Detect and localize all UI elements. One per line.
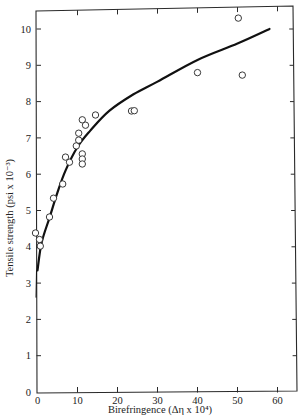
data-point-circle [66,159,72,165]
x-axis-label: Birefringence (Δη x 10⁴) [108,404,213,416]
data-point-circle [37,243,43,249]
plot-frame [36,6,297,393]
x-tick-label: 50 [232,395,243,406]
plot-border [36,6,297,393]
x-tick-label: 0 [35,395,40,406]
data-point-circle [60,181,66,187]
x-tick-label: 60 [272,395,283,406]
data-point-circle [82,122,88,128]
y-tick-label: 1 [26,350,31,361]
data-points [32,15,245,249]
data-point-circle [76,137,82,143]
data-point-circle [239,72,245,78]
data-point-circle [131,108,137,114]
y-tick-label: 2 [26,314,31,325]
y-tick-label: 10 [21,24,32,35]
data-point-circle [194,69,200,75]
y-tick-label: 6 [26,169,31,180]
y-axis-label: Tensile strength (psi x 10⁻³) [4,158,16,277]
y-axis-ticks: 012345678910 [21,24,297,398]
fit-curve-tail [36,270,37,297]
y-tick-label: 5 [26,205,31,216]
tensile-vs-birefringence-chart: 012345678910 0102030405060 Birefringence… [0,0,302,420]
y-tick-label: 4 [26,241,32,252]
y-tick-label: 8 [26,96,31,107]
data-point-circle [79,161,85,167]
data-point-circle [76,130,82,136]
y-tick-label: 0 [26,387,31,398]
x-axis-ticks: 0102030405060 [35,6,283,406]
data-point-circle [36,236,42,242]
data-point-circle [92,112,98,118]
y-tick-label: 7 [26,133,31,144]
x-tick-label: 10 [72,395,83,406]
data-point-circle [235,15,241,21]
fit-curve-line [38,29,270,270]
y-tick-label: 3 [26,278,31,289]
y-tick-label: 9 [26,60,31,71]
data-point-circle [32,230,38,236]
data-point-circle [50,195,56,201]
data-point-circle [46,214,52,220]
